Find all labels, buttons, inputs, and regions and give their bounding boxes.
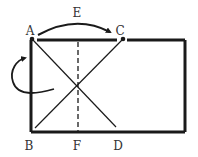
label-c: C <box>115 24 124 38</box>
arc-arrow-icon <box>38 24 110 35</box>
label-e: E <box>73 6 82 20</box>
label-a: A <box>25 24 35 38</box>
curved-arrow-icon <box>12 58 54 93</box>
fold-diagram: E A C B F D <box>0 0 198 157</box>
diagonal-a-d <box>33 40 116 127</box>
label-b: B <box>25 139 34 153</box>
label-f: F <box>73 139 81 153</box>
label-d: D <box>113 139 123 153</box>
